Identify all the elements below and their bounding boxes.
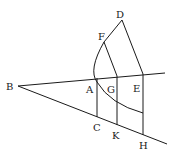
label-k: K xyxy=(112,130,120,141)
label-f: F xyxy=(98,31,105,42)
label-a: A xyxy=(85,84,94,95)
geometry-diagram: B A G E C K H F D xyxy=(0,0,180,158)
label-c: C xyxy=(93,122,101,133)
label-d: D xyxy=(116,9,124,20)
segment-de xyxy=(122,20,143,74)
label-b: B xyxy=(6,81,13,92)
segment-fd xyxy=(104,20,122,42)
label-h: H xyxy=(139,140,148,151)
segment-fg xyxy=(104,42,117,76)
label-g: G xyxy=(107,84,115,95)
label-e: E xyxy=(133,83,140,94)
